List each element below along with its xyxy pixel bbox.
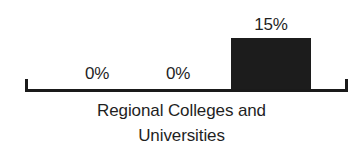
- bar-chart: 0% 0% 15% Regional Colleges and Universi…: [0, 0, 363, 157]
- bar-3-value-label: 15%: [254, 15, 287, 35]
- axis-end-cap-right: [345, 79, 348, 90]
- plot-area: 0% 0% 15%: [0, 0, 363, 100]
- bar-2-value-label: 0%: [166, 64, 190, 84]
- axis-baseline: [25, 89, 348, 92]
- caption-line-1: Regional Colleges and: [0, 98, 363, 123]
- category-caption: Regional Colleges and Universities: [0, 98, 363, 148]
- bar-3: [231, 38, 311, 89]
- axis-end-cap-left: [25, 79, 28, 90]
- caption-line-2: Universities: [0, 123, 363, 148]
- bar-1-value-label: 0%: [85, 64, 109, 84]
